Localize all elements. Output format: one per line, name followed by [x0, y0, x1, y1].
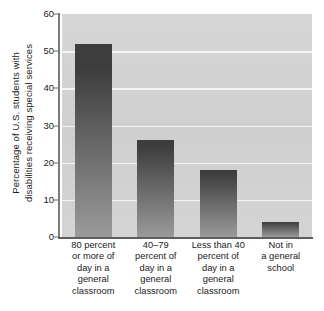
x-category-label-line: 80 percent	[63, 240, 124, 251]
x-category-label-line: classroom	[63, 286, 124, 297]
x-category-label-line: general	[126, 274, 187, 285]
x-category-label-line: percent of	[126, 251, 187, 262]
x-category-label-line: Not in	[251, 240, 312, 251]
x-category-label-line: day in a	[63, 263, 124, 274]
y-axis-line	[58, 13, 60, 238]
x-category-label-line: day in a	[126, 263, 187, 274]
x-category-label: Not ina generalschool	[250, 240, 313, 311]
y-tick-label: 10	[43, 195, 54, 205]
x-category-label-line: or more of	[63, 251, 124, 262]
x-category-label: 80 percentor more ofday in ageneralclass…	[62, 240, 125, 311]
x-category-label-line: percent of	[188, 251, 249, 262]
x-category-label-line: general	[188, 274, 249, 285]
bar	[200, 170, 237, 237]
y-axis-title-line-2: disabilities receiving special services	[22, 43, 35, 201]
y-axis-title-line-1: Percentage of U.S. students with	[9, 43, 22, 201]
x-category-label-line: classroom	[126, 286, 187, 297]
bar	[75, 44, 112, 237]
x-category-label: Less than 40percent ofday in ageneralcla…	[187, 240, 250, 311]
x-axis-line	[58, 237, 313, 239]
y-tick-label: 30	[43, 121, 54, 131]
y-tick-label: 40	[43, 83, 54, 93]
x-category-label: 40–79percent ofday in ageneralclassroom	[125, 240, 188, 311]
x-category-label-line: Less than 40	[188, 240, 249, 251]
bar	[262, 222, 299, 237]
y-axis-ticks: 0102030405060	[38, 14, 58, 237]
x-category-label-line: day in a	[188, 263, 249, 274]
x-category-label-line: classroom	[188, 286, 249, 297]
y-tick-label: 50	[43, 46, 54, 56]
y-axis-title-text: Percentage of U.S. students with disabil…	[9, 43, 35, 201]
bar-chart-figure: Percentage of U.S. students with disabil…	[0, 0, 324, 311]
x-category-label-line: general	[63, 274, 124, 285]
y-tick-label: 60	[43, 9, 54, 19]
bar	[137, 140, 174, 237]
x-axis-category-labels: 80 percentor more ofday in ageneralclass…	[62, 240, 312, 311]
x-category-label-line: 40–79	[126, 240, 187, 251]
x-category-label-line: school	[251, 263, 312, 274]
x-category-label-line: a general	[251, 251, 312, 262]
plot-area	[62, 14, 312, 237]
y-tick-label: 20	[43, 158, 54, 168]
